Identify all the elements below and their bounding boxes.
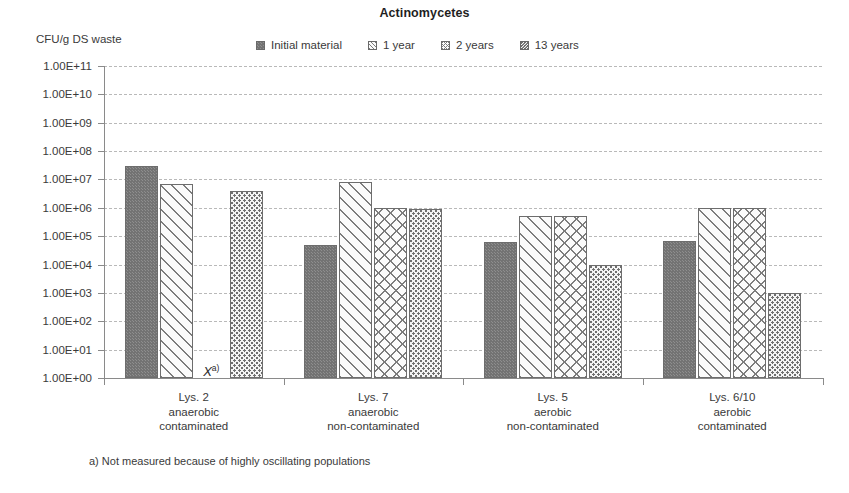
y-axis-tick — [98, 66, 105, 67]
chart-footnote: a) Not measured because of highly oscill… — [89, 455, 370, 467]
gridline — [104, 151, 822, 152]
bar-lys5-solid[interactable] — [484, 242, 517, 378]
legend-item-initial-material[interactable]: Initial material — [256, 39, 342, 51]
x-axis-tick — [643, 378, 644, 385]
y-axis-tick-label: 1.00E+04 — [14, 259, 92, 271]
gridline — [104, 66, 822, 67]
y-axis-tick — [98, 350, 105, 351]
legend-label-13-years: 13 years — [535, 39, 579, 51]
y-axis-tick — [98, 293, 105, 294]
category-label-line-2: contaminated — [643, 419, 823, 434]
legend-swatch-solid-icon — [256, 41, 265, 50]
y-axis-tick-label: 1.00E+07 — [14, 173, 92, 185]
y-axis-tick — [98, 151, 105, 152]
y-axis-tick — [98, 94, 105, 95]
category-label-line-1: anaerobic — [104, 405, 284, 420]
category-label-line-2: contaminated — [104, 419, 284, 434]
x-axis-tick — [104, 378, 105, 385]
chart-legend: Initial material 1 year 2 years 13 years — [256, 39, 579, 51]
bar-lys7-diagonal[interactable] — [339, 182, 372, 378]
bar-lys2-solid[interactable] — [125, 166, 158, 378]
category-label-lys610: Lys. 6/10aerobiccontaminated — [643, 390, 823, 434]
chart-title: Actinomycetes — [0, 6, 849, 20]
category-label-lys2: Lys. 2anaerobiccontaminated — [104, 390, 284, 434]
y-axis-tick-label: 1.00E+06 — [14, 202, 92, 214]
category-label-line-0: Lys. 5 — [463, 390, 643, 405]
category-label-line-0: Lys. 7 — [284, 390, 464, 405]
category-label-line-1: aerobic — [463, 405, 643, 420]
not-measured-symbol: X — [203, 364, 212, 379]
legend-item-13-years[interactable]: 13 years — [520, 39, 579, 51]
gridline — [104, 123, 822, 124]
y-axis-tick-label: 1.00E+11 — [14, 60, 92, 72]
category-label-line-1: aerobic — [643, 405, 823, 420]
y-axis-tick — [98, 208, 105, 209]
footnote-marker: a) — [212, 363, 220, 373]
category-label-lys5: Lys. 5aerobicnon-contaminated — [463, 390, 643, 434]
legend-item-2-years[interactable]: 2 years — [441, 39, 494, 51]
y-axis-tick-label: 1.00E+02 — [14, 315, 92, 327]
bar-lys7-chevron[interactable] — [374, 208, 407, 378]
bar-lys5-diagonal[interactable] — [519, 216, 552, 378]
legend-label-1-year: 1 year — [383, 39, 415, 51]
gridline — [104, 179, 822, 180]
bar-lys5-chevron[interactable] — [554, 216, 587, 378]
category-label-line-0: Lys. 2 — [104, 390, 284, 405]
bar-lys2-dots[interactable] — [230, 191, 263, 378]
y-axis-tick-label: 1.00E+08 — [14, 145, 92, 157]
y-axis-tick-label: 1.00E+01 — [14, 344, 92, 356]
legend-swatch-dots-icon — [520, 41, 529, 50]
not-measured-marker: Xa) — [195, 364, 228, 378]
y-axis-tick-label: 1.00E+03 — [14, 287, 92, 299]
bar-lys610-dots[interactable] — [768, 293, 801, 378]
y-axis-tick — [98, 321, 105, 322]
bar-lys7-dots[interactable] — [409, 209, 442, 378]
bar-lys2-diagonal[interactable] — [160, 184, 193, 378]
legend-item-1-year[interactable]: 1 year — [368, 39, 415, 51]
legend-label-2-years: 2 years — [456, 39, 494, 51]
bar-lys7-solid[interactable] — [304, 245, 337, 378]
x-axis-tick — [284, 378, 285, 385]
y-axis-tick-label: 1.00E+10 — [14, 88, 92, 100]
legend-swatch-chevron-icon — [441, 41, 450, 50]
category-label-line-1: anaerobic — [284, 405, 464, 420]
category-label-line-0: Lys. 6/10 — [643, 390, 823, 405]
y-axis-tick — [98, 123, 105, 124]
x-axis-tick — [463, 378, 464, 385]
legend-swatch-diagonal-icon — [368, 41, 377, 50]
y-axis-tick — [98, 179, 105, 180]
y-axis-tick-label: 1.00E+00 — [14, 372, 92, 384]
gridline — [104, 94, 822, 95]
chart-root: Actinomycetes CFU/g DS waste Initial mat… — [0, 0, 849, 493]
y-axis-tick — [98, 265, 105, 266]
bar-lys610-solid[interactable] — [663, 241, 696, 378]
y-axis-tick-label: 1.00E+05 — [14, 230, 92, 242]
y-axis-label: CFU/g DS waste — [36, 33, 122, 45]
bar-lys5-dots[interactable] — [589, 265, 622, 378]
y-axis-tick — [98, 236, 105, 237]
legend-label-initial-material: Initial material — [271, 39, 342, 51]
y-axis-tick-label: 1.00E+09 — [14, 117, 92, 129]
x-axis-tick — [823, 378, 824, 385]
bar-lys610-chevron[interactable] — [733, 208, 766, 378]
category-label-line-2: non-contaminated — [284, 419, 464, 434]
y-axis-line — [104, 66, 105, 379]
category-label-lys7: Lys. 7anaerobicnon-contaminated — [284, 390, 464, 434]
category-label-line-2: non-contaminated — [463, 419, 643, 434]
bar-lys610-diagonal[interactable] — [698, 208, 731, 378]
plot-area: Xa) — [104, 66, 822, 378]
